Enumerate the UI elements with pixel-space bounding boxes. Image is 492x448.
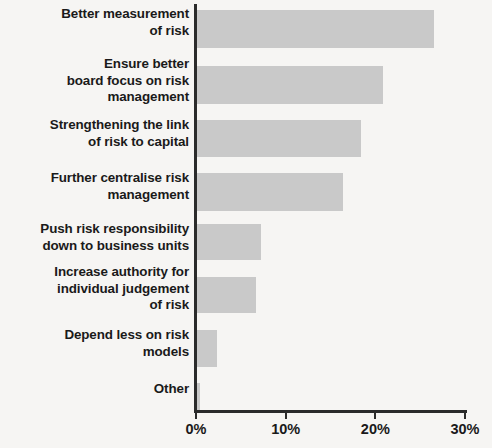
x-tick-mark	[464, 411, 466, 419]
category-label: Depend less on risk models	[0, 327, 189, 360]
category-labels: Better measurement of riskEnsure better …	[0, 0, 189, 411]
x-tick-mark	[374, 411, 376, 419]
x-tick-label: 10%	[271, 420, 300, 438]
category-label: Better measurement of risk	[0, 6, 189, 39]
bar	[196, 330, 217, 367]
category-label: Further centralise risk management	[0, 170, 189, 203]
x-tick-mark	[285, 411, 287, 419]
bar	[196, 120, 361, 157]
bar	[196, 224, 261, 260]
category-label: Increase authority for individual judgem…	[0, 264, 189, 314]
category-label: Ensure better board focus on risk manage…	[0, 56, 189, 106]
bar	[196, 277, 256, 313]
x-tick-label: 30%	[450, 420, 479, 438]
bar-chart: Better measurement of riskEnsure better …	[0, 0, 492, 448]
plot-area	[196, 0, 492, 411]
y-axis-line	[194, 4, 197, 411]
x-axis-line	[194, 410, 467, 413]
category-label: Push risk responsibility down to busines…	[0, 221, 189, 254]
bar	[196, 173, 343, 211]
x-tick-mark	[195, 411, 197, 419]
bar	[196, 383, 200, 410]
bar	[196, 10, 434, 48]
category-label: Strengthening the link of risk to capita…	[0, 117, 189, 150]
x-tick-label: 20%	[361, 420, 390, 438]
bar	[196, 66, 383, 104]
x-tick-label: 0%	[186, 420, 207, 438]
category-label: Other	[0, 381, 189, 398]
